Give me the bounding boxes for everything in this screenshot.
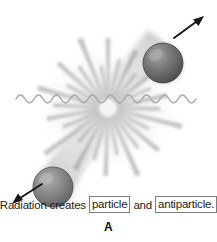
caption-boxed-term-particle: particle — [89, 196, 130, 213]
momentum-arrow-up-right — [174, 16, 204, 38]
caption-conjunction: and — [133, 198, 152, 212]
figure-panel: Radiation creates particle and antiparti… — [0, 0, 217, 242]
particle-sphere-upper-right — [143, 43, 184, 85]
caption: Radiation creates particle and antiparti… — [0, 195, 217, 214]
caption-boxed-term-antiparticle: antiparticle. — [155, 196, 217, 213]
panel-label: A — [0, 220, 217, 234]
caption-lead-text: Radiation creates — [0, 198, 86, 212]
